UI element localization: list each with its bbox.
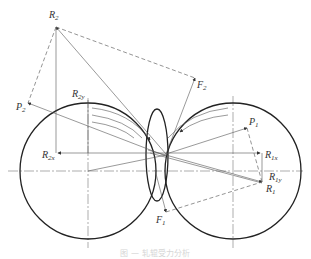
- label-R1: R1: [265, 183, 276, 196]
- label-R2x: R2x: [41, 149, 56, 162]
- label-P2: P2: [15, 101, 26, 114]
- roll-force-diagram: R2 P2 F2 R2y R2x P1 R1x R1y R1 F1 图 — 轧辊…: [0, 0, 311, 259]
- label-R2: R2: [48, 9, 59, 22]
- label-F2: F2: [196, 79, 207, 92]
- label-F1: F1: [155, 214, 166, 227]
- rotation-arrows-left: [92, 108, 150, 140]
- label-P1: P1: [248, 116, 259, 129]
- label-R1x: R1x: [264, 149, 279, 162]
- figure-caption: 图 — 轧辊受力分析: [120, 248, 189, 258]
- dashed-construction: [28, 27, 262, 212]
- label-R2y: R2y: [71, 88, 86, 101]
- force-lines: [28, 27, 262, 212]
